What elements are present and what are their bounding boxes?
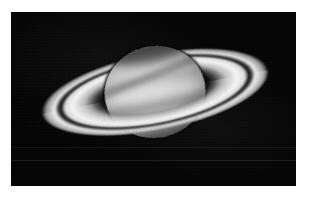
image-viewer: Saturn	[0, 0, 309, 198]
saturn-photograph	[11, 12, 296, 186]
